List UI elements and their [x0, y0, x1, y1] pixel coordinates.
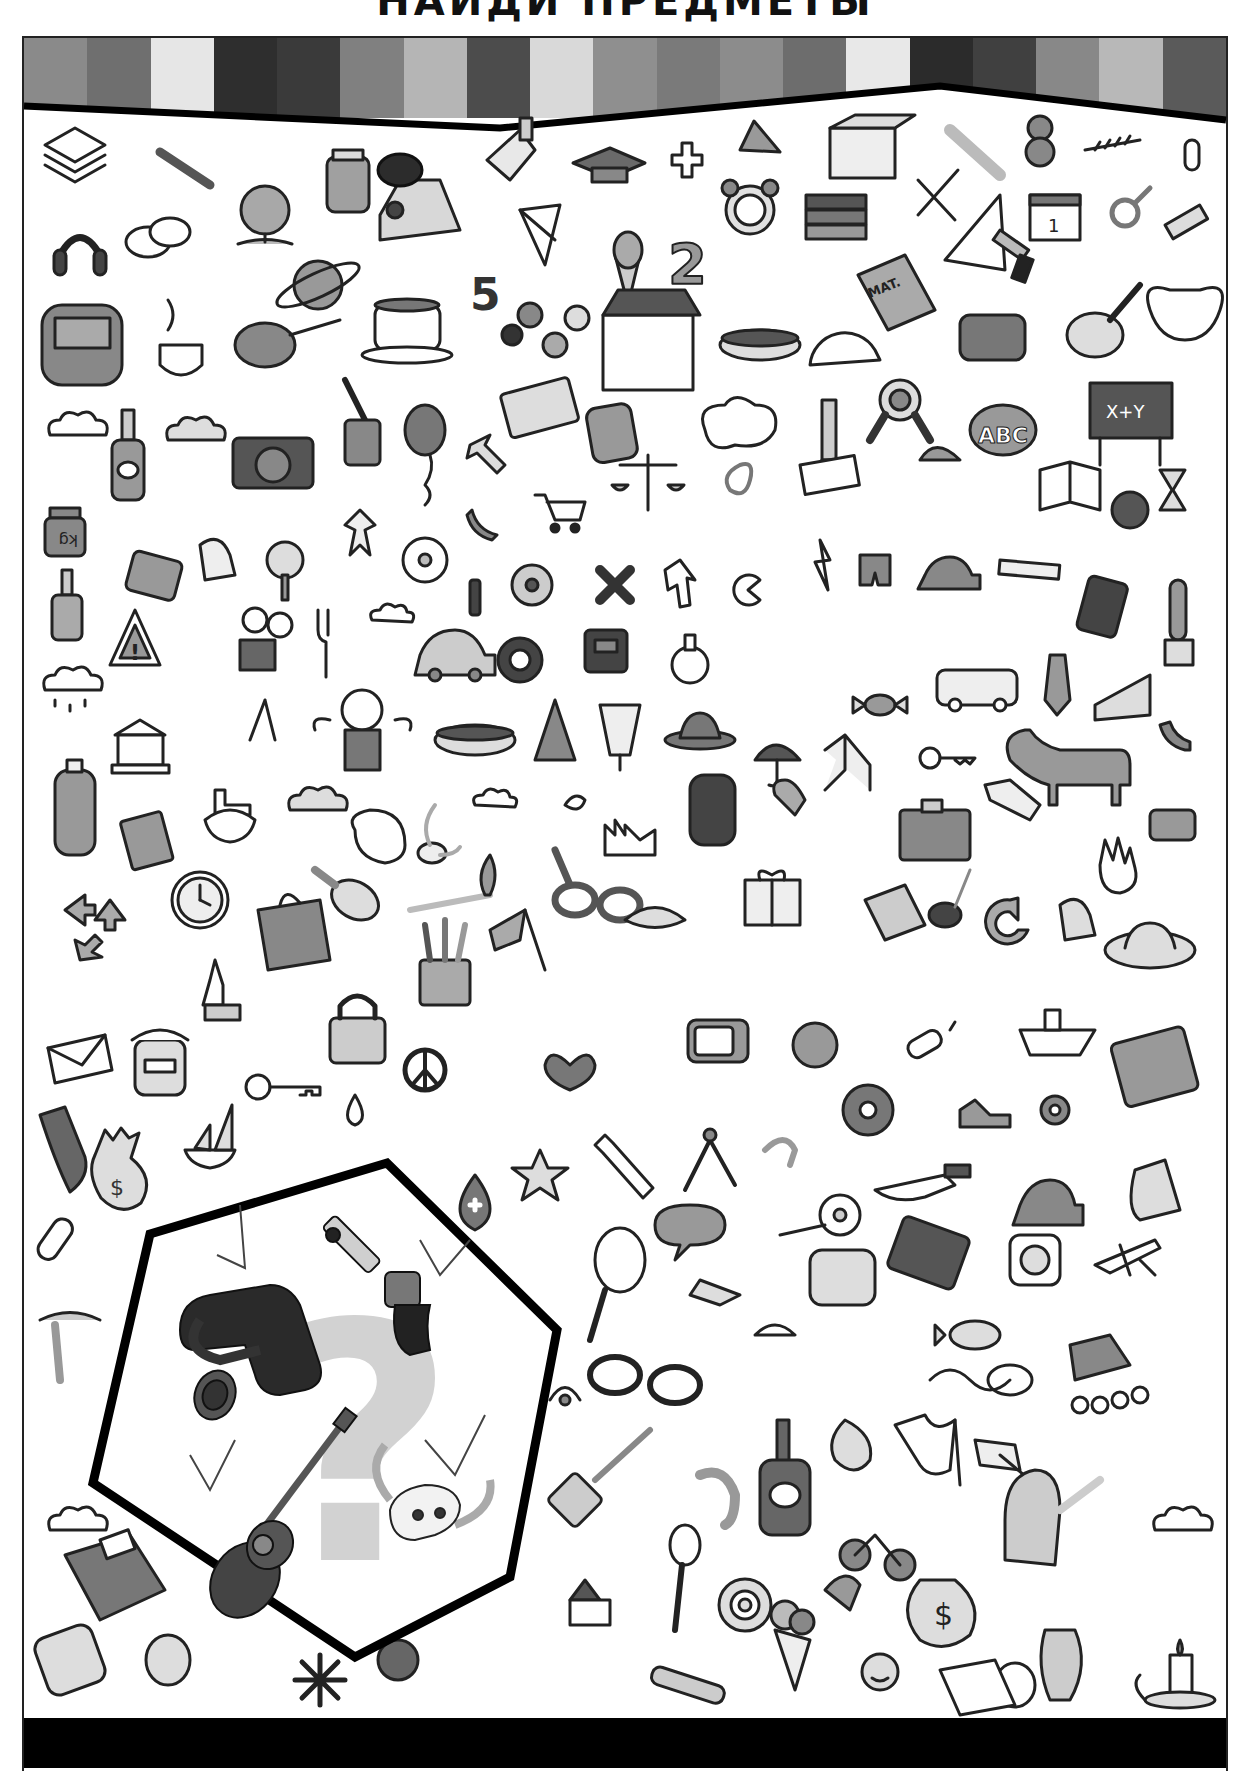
- paint-palette-icon: [352, 810, 405, 863]
- compass-icon: [685, 1129, 735, 1190]
- sausage-icon: [700, 1473, 735, 1526]
- cloud-icon-6: [1154, 1507, 1213, 1530]
- medical-drop-icon: [460, 1175, 490, 1230]
- sun-smile-icon: [862, 1654, 898, 1690]
- snowflake-icon: [295, 1655, 345, 1705]
- svg-text:kg: kg: [59, 531, 78, 550]
- wall-clock-icon: [172, 872, 228, 928]
- svg-text:2: 2: [668, 231, 707, 296]
- match-flame-icon: [410, 855, 495, 910]
- lightning-icon: [815, 540, 830, 590]
- graduation-cap-icon: [573, 148, 645, 182]
- pump-shoe-icon: [1160, 722, 1190, 750]
- up-arrow-icon: [665, 560, 695, 607]
- spatula-icon-2: [547, 1430, 650, 1528]
- magnifying-glass-icon: [315, 870, 386, 928]
- money-bag-icon-2: $: [908, 1580, 976, 1646]
- bell-icon: [200, 539, 235, 580]
- svg-text:$: $: [934, 1597, 953, 1632]
- plus-sign-icon: [672, 143, 702, 177]
- ice-cream-icon-2: [771, 1601, 814, 1690]
- lyre-icon: [1148, 288, 1223, 341]
- money-bag-icon: $: [92, 1128, 147, 1209]
- blackboard-icon: X+Y: [1090, 383, 1172, 465]
- tie-icon: [1045, 655, 1070, 715]
- calendar-icon: 1: [1030, 195, 1080, 240]
- gingerbread-man-icon: [345, 510, 375, 555]
- cross-x-icon: [600, 570, 630, 600]
- number-two-icon: 2: [668, 231, 707, 296]
- paper-clip-icon-2: [34, 1215, 76, 1263]
- croissant-icon: [625, 908, 685, 928]
- svg-text:!: !: [130, 640, 140, 665]
- ribbon-icon: [765, 1140, 795, 1165]
- speech-bubbles-icon: [126, 218, 190, 257]
- car-icon-2: [1013, 1180, 1083, 1225]
- candle-icon: [905, 1022, 955, 1061]
- sailboat-icon: [185, 1105, 235, 1168]
- globe-icon: [238, 186, 292, 244]
- rain-cloud-icon: [44, 667, 103, 711]
- candle-holder-icon: [1136, 1640, 1215, 1708]
- coffee-cup-icon: [160, 300, 202, 375]
- wrench-icon: [595, 1135, 653, 1198]
- svg-text:5: 5: [470, 269, 501, 320]
- car-icon: [415, 630, 495, 681]
- paper-clip-icon: [1185, 140, 1199, 170]
- bell-icon-2: [1060, 899, 1095, 940]
- padlock-icon: [330, 996, 385, 1063]
- roller-skate-icon: [1070, 1335, 1148, 1413]
- gear-icon: [498, 638, 542, 682]
- airplane-icon: [1095, 1240, 1160, 1275]
- cloud-icon-4: [289, 787, 348, 810]
- alarm-clock-icon: [722, 180, 778, 234]
- vase-icon: [1041, 1630, 1081, 1700]
- calculator-icon: [585, 402, 639, 464]
- jam-jar-icon: [132, 1030, 188, 1095]
- flag-icon: [490, 910, 545, 970]
- balloon-icon: [405, 405, 445, 505]
- hourglass-icon: [1160, 470, 1185, 510]
- envelope-icon: [48, 1035, 112, 1083]
- open-book-icon: [1040, 462, 1100, 510]
- notebook-icon: [1110, 1026, 1199, 1108]
- headphones-icon: [54, 238, 106, 276]
- shoe-icon-2: [960, 1100, 1010, 1127]
- cocktail-glass-icon: [600, 705, 640, 770]
- cake-slice-icon: [1095, 675, 1150, 720]
- cloud-icon-2: [167, 417, 226, 440]
- hat-icon: [665, 713, 735, 749]
- recycle-arrows-icon: [65, 895, 125, 960]
- cloud-icon-3: [371, 604, 414, 622]
- telephone-icon: [810, 1250, 875, 1305]
- warning-sign-icon: !: [110, 610, 160, 665]
- puzzle-board: 2 1 5 MAT. ABC X+Y kg !: [0, 0, 1251, 1774]
- hidden-skull-icon: [418, 805, 460, 863]
- computer-mouse-icon: [930, 1365, 1032, 1395]
- ship-icon: [1020, 1010, 1095, 1055]
- svg-text:$: $: [110, 1175, 124, 1200]
- cloud-icon: [49, 412, 108, 435]
- gift-bag-icon: [65, 1530, 165, 1620]
- sneaker-icon-3: [1131, 1160, 1180, 1220]
- doll-icon: [314, 690, 411, 770]
- arrow-up-icon: [467, 435, 505, 473]
- paper-plane-icon: [520, 205, 560, 265]
- flask-icon: [672, 635, 708, 683]
- cutter-icon: [999, 560, 1060, 579]
- floppy-disk-icon: [585, 630, 627, 672]
- key-icon: [920, 748, 975, 768]
- wheel-icon: [512, 565, 552, 605]
- sun-hat-icon: [1105, 923, 1195, 968]
- pear-icon: [832, 1420, 871, 1470]
- umbrella-icon: [755, 745, 800, 786]
- leaf-icon: [565, 796, 585, 809]
- protractor-icon: [810, 333, 880, 365]
- camera-icon: [233, 438, 313, 488]
- cloud-icon-7: [49, 1507, 108, 1530]
- jar-icon: [327, 150, 369, 212]
- shorts-icon: [860, 555, 890, 585]
- teddy-bear-icon: [1026, 116, 1054, 166]
- water-bottle-icon: [55, 760, 95, 855]
- sneaker-icon-2: [774, 780, 805, 815]
